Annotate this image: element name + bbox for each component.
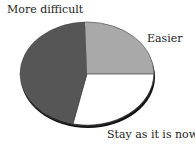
- label-easier: Easier: [147, 32, 183, 45]
- slice-stay: [73, 74, 154, 125]
- label-stay-as-it-is-now: Stay as it is now: [107, 128, 195, 141]
- slice-more-difficult-body: [20, 22, 87, 124]
- label-more-difficult: More difficult: [7, 3, 83, 16]
- slice-easier: [85, 22, 154, 74]
